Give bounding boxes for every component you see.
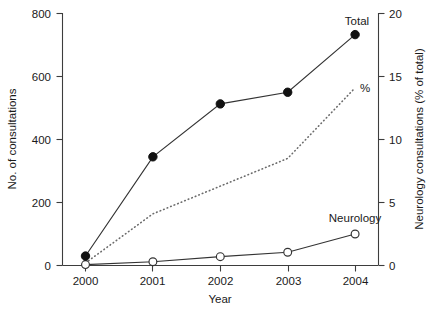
left-axis-title: No. of consultations: [6, 88, 18, 189]
series-total-label: Total: [345, 15, 369, 27]
bottom-axis-tick-label-2001: 2001: [140, 275, 166, 287]
bottom-axis-tick-label-2003: 2003: [276, 275, 302, 287]
right-axis-title: Neurology consultations (% of total): [413, 48, 425, 230]
bottom-axis-tick-label-2004: 2004: [343, 275, 369, 287]
series-total-line: [86, 35, 356, 256]
series-percent: %: [86, 82, 371, 263]
series-percent-label: %: [360, 82, 370, 94]
data-point-neurology-2002: [216, 253, 224, 261]
data-point-neurology-2001: [149, 258, 157, 266]
data-point-total-2000: [81, 252, 89, 260]
series-total: Total: [81, 15, 369, 260]
left-axis-tick-label-400: 400: [32, 134, 51, 146]
bottom-axis-tick-label-2000: 2000: [73, 275, 99, 287]
left-axis-tick-label-0: 0: [45, 260, 51, 272]
right-axis-tick-label-10: 10: [389, 134, 402, 146]
left-axis-tick-label-200: 200: [32, 197, 51, 209]
data-point-total-2002: [216, 100, 224, 108]
data-point-total-2001: [149, 153, 157, 161]
data-point-neurology-2003: [284, 248, 292, 256]
series-neurology-label: Neurology: [329, 212, 382, 224]
data-point-neurology-2004: [351, 230, 359, 238]
bottom-axis-title: Year: [208, 293, 231, 305]
data-point-total-2004: [351, 30, 359, 38]
right-axis: 20 15 10 5 0 Neurology consultations (% …: [379, 8, 426, 272]
right-axis-tick-label-20: 20: [389, 8, 402, 20]
left-axis-tick-label-800: 800: [32, 8, 51, 20]
data-point-neurology-2000: [82, 261, 90, 269]
left-axis: 800 600 400 200 0 No. of consultations: [6, 8, 63, 272]
series-total-markers: [81, 30, 359, 260]
left-axis-tick-label-600: 600: [32, 71, 51, 83]
series-percent-line: [86, 88, 356, 263]
line-chart-canvas: 800 600 400 200 0 No. of consultations 2…: [0, 0, 432, 310]
series-neurology: Neurology: [82, 212, 382, 268]
data-point-total-2003: [284, 88, 292, 96]
right-axis-tick-label-15: 15: [389, 71, 402, 83]
bottom-axis-tick-label-2002: 2002: [208, 275, 234, 287]
right-axis-tick-label-5: 5: [389, 197, 395, 209]
chart-figure: 800 600 400 200 0 No. of consultations 2…: [0, 0, 432, 310]
right-axis-tick-label-0: 0: [389, 260, 395, 272]
bottom-axis: 2000 2001 2002 2003 2004 Year: [63, 266, 379, 306]
